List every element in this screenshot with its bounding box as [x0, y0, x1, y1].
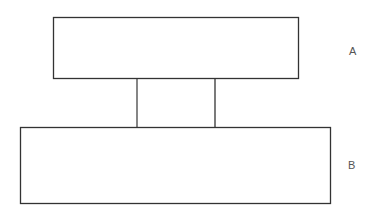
diagram-canvas: A B [0, 0, 371, 215]
box-b [21, 128, 331, 204]
label-b: B [348, 160, 355, 171]
diagram-svg [0, 0, 371, 215]
label-a: A [349, 46, 356, 57]
box-a [54, 18, 299, 79]
